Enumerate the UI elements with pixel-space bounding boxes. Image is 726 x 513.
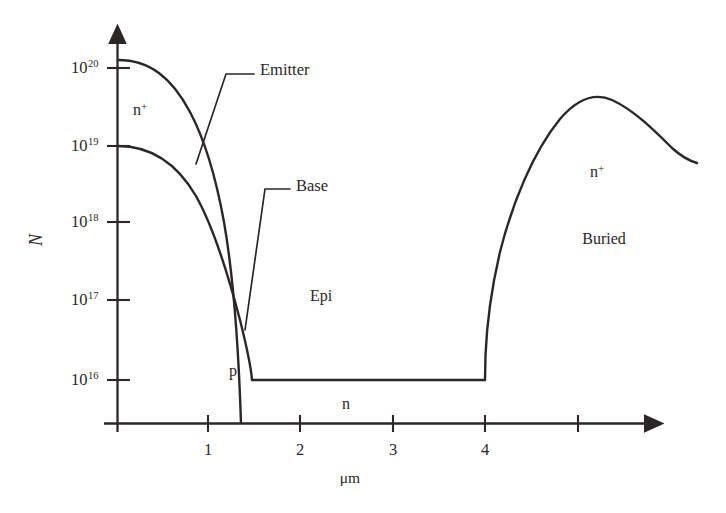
y-tick-mantissa: 10	[71, 58, 88, 77]
x-tick-label-1: 1	[204, 442, 212, 459]
y-tick-mantissa: 10	[71, 136, 88, 155]
base-curve	[118, 146, 252, 380]
y-tick-exponent: 19	[88, 136, 99, 147]
region-label-superscript: +	[141, 100, 147, 112]
region-label-text: n	[590, 163, 598, 180]
y-tick-label-1e17: 1017	[0, 292, 98, 309]
callout-label-emitter: Emitter	[260, 62, 309, 79]
x-axis-title: μm	[340, 470, 360, 486]
doping-profile-plot	[0, 0, 726, 513]
y-tick-label-1e18: 1018	[0, 214, 98, 231]
y-tick-label-1e16: 1016	[0, 372, 98, 389]
y-tick-mantissa: 10	[71, 290, 88, 309]
callout-label-base: Base	[296, 178, 328, 195]
callout-leaders	[196, 74, 290, 330]
y-tick-mantissa: 10	[71, 370, 88, 389]
region-label-base-type: p	[229, 363, 237, 379]
y-tick-exponent: 16	[88, 370, 99, 381]
region-label-superscript: +	[598, 162, 604, 174]
region-label-emitter-type: n+	[133, 102, 147, 118]
region-label-epi-type: n	[342, 396, 350, 412]
axis-group	[104, 42, 646, 432]
doping-profile-figure: 1020 1019 1018 1017 1016 1 2 3 4 μm N n+…	[0, 0, 726, 513]
region-label-buried-type: n+	[590, 164, 604, 180]
emitter-leader-line	[196, 74, 254, 164]
y-axis-title: N	[27, 234, 45, 246]
x-tick-label-2: 2	[296, 442, 304, 459]
x-tick-label-3: 3	[389, 442, 397, 459]
base-leader-line	[245, 189, 290, 330]
region-label-text: n	[133, 101, 141, 118]
y-tick-exponent: 18	[88, 212, 99, 223]
region-label-epi: Epi	[310, 288, 332, 304]
y-tick-label-1e19: 1019	[0, 138, 98, 155]
x-tick-label-4: 4	[481, 442, 489, 459]
y-tick-exponent: 17	[88, 290, 99, 301]
region-label-buried: Buried	[582, 231, 626, 247]
y-tick-mantissa: 10	[71, 212, 88, 231]
y-tick-exponent: 20	[88, 58, 99, 69]
y-tick-label-1e20: 1020	[0, 60, 98, 77]
